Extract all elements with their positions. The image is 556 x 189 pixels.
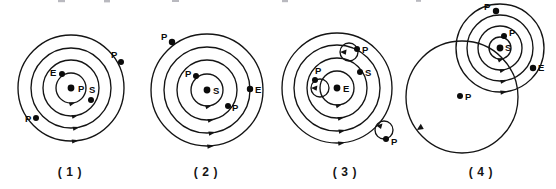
scan-artifact-top-row: [58, 0, 421, 2]
body-earth-center: E: [334, 83, 350, 94]
body-planet-offset-center: P: [457, 91, 472, 102]
body-label: P: [509, 27, 516, 38]
orbit-direction-arrow: [205, 104, 212, 110]
panel-4-caption: ( 4 ): [469, 165, 493, 179]
body-sun-center: S: [497, 42, 512, 53]
panel-1-direction-arrows: [69, 101, 81, 144]
orbit-direction-arrow: [336, 103, 343, 109]
body-label: P: [232, 102, 239, 113]
panel-2-direction-arrows: [205, 104, 216, 149]
orbit-direction-arrow: [69, 101, 76, 107]
body-planet-outer-epicycle: P: [383, 136, 398, 147]
body-earth: E: [530, 62, 545, 73]
orbit-direction-arrow: [207, 117, 215, 123]
body-label: S: [505, 42, 511, 53]
body-label: S: [365, 67, 371, 78]
body-label: E: [343, 83, 349, 94]
panel-2-diagram: S P P E P ( 2 ): [151, 31, 263, 179]
body-label: P: [484, 1, 491, 12]
body-label: P: [315, 65, 322, 76]
body-planet-outer: P: [161, 31, 175, 45]
orbit-direction-arrow: [73, 125, 81, 131]
orbit-direction-arrow: [499, 67, 507, 73]
body-label: P: [362, 44, 369, 55]
body-planet-lower-left: P: [25, 113, 39, 124]
orbit-direction-arrow: [337, 115, 345, 121]
body-label: E: [255, 84, 261, 95]
body-label: P: [111, 49, 118, 60]
body-label: P: [185, 68, 192, 79]
panel-3-caption: ( 3 ): [333, 165, 357, 179]
body-sun-center: S: [204, 85, 220, 96]
body-planet-center: P: [68, 83, 85, 94]
panel-4-diagram: S P E P P ( 4 ): [406, 1, 544, 179]
panel-1-diagram: P E S P P ( 1 ): [18, 35, 124, 179]
body-earth: E: [247, 84, 262, 95]
planetary-models-figure: P E S P P ( 1 ): [0, 0, 556, 189]
body-label: P: [78, 83, 85, 94]
body-planet-outer: P: [484, 1, 499, 14]
body-planet-inner: P: [185, 68, 199, 79]
body-planet-second: P: [225, 102, 239, 113]
body-label: E: [50, 67, 56, 78]
body-label: S: [89, 84, 95, 95]
body-earth: E: [50, 67, 65, 78]
body-label: P: [465, 91, 472, 102]
body-label: S: [213, 85, 219, 96]
epicycle-direction-arrow: [311, 86, 317, 91]
body-label: P: [391, 136, 398, 147]
panel-1-caption: ( 1 ): [58, 165, 82, 179]
body-label: E: [538, 62, 544, 73]
panel-3-diagram: E P S P P ( 3 ): [282, 33, 398, 179]
orbit-direction-arrow: [71, 113, 79, 119]
body-label: P: [161, 31, 168, 42]
body-planet-inner-epicycle: P: [312, 65, 322, 83]
figure-container: P E S P P ( 1 ): [0, 0, 556, 189]
epicycle-direction-arrow: [340, 50, 347, 55]
panel-2-caption: ( 2 ): [194, 165, 218, 179]
body-label: P: [25, 113, 32, 124]
body-planet-inner: P: [501, 27, 516, 39]
body-sun: S: [88, 84, 95, 103]
